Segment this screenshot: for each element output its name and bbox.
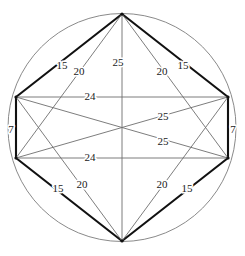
chords-layer [16, 14, 228, 241]
vertex-top [120, 12, 123, 15]
edge-right-upper-right-lower-label: 7 [230, 123, 236, 135]
inscribed-hexagon-diagram: 1515151515151515777720202020202020202525… [0, 0, 245, 256]
chord-left-upper-right-upper-label: 24 [85, 90, 97, 102]
chord-top-left-lower-label: 20 [74, 65, 86, 77]
edge-bottom-right-lower-label: 15 [182, 182, 194, 194]
chord-bottom-right-upper [122, 97, 228, 241]
edge-top-right-upper-label: 15 [178, 59, 190, 71]
vertex-bottom [120, 239, 123, 242]
edge-left-upper-left-lower-label: 7 [8, 123, 14, 135]
chord-top-left-lower [16, 14, 122, 158]
vertex-right-lower [226, 156, 229, 159]
chord-bottom-left-upper [16, 97, 122, 241]
chord-top-right-lower [122, 14, 228, 158]
geometry-figure: 1515151515151515777720202020202020202525… [0, 0, 245, 256]
diameter-top-bottom-label: 25 [113, 56, 125, 68]
chord-top-right-lower-label: 20 [157, 65, 169, 77]
chord-left-upper-right-lower-label: 25 [158, 135, 170, 147]
chord-left-lower-right-upper-label: 25 [158, 110, 170, 122]
vertex-left-upper [14, 95, 17, 98]
chord-bottom-left-upper-label: 20 [77, 178, 89, 190]
edge-bottom-left-lower-label: 15 [53, 182, 65, 194]
chord-left-lower-right-lower-label: 24 [85, 151, 97, 163]
chord-bottom-right-upper-label: 20 [157, 178, 169, 190]
vertex-left-lower [14, 156, 17, 159]
edge-top-left-upper-label: 15 [57, 59, 69, 71]
vertex-right-upper [226, 95, 229, 98]
